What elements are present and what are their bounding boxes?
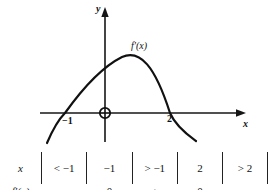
cell-fprime-1: 0 xyxy=(91,184,128,190)
graph-area: y x −1 2 f'(x) xyxy=(0,0,272,150)
table-rule-spacer xyxy=(83,184,92,190)
row-label-fprime: f′(x) xyxy=(4,184,37,190)
table-rule xyxy=(218,152,227,184)
sign-table: x < −1 −1 > −1 2 > 2 f′(x) −ve 0 xyxy=(0,152,272,190)
table-rule-spacer xyxy=(37,184,46,190)
cell-fprime-2: + xyxy=(136,184,173,190)
table-rule xyxy=(173,152,182,184)
cell-x-4: > 2 xyxy=(227,152,264,184)
derivative-curve xyxy=(47,55,196,143)
table-rule-spacer xyxy=(173,184,182,190)
table-row-fprime: f′(x) −ve 0 + 0 −ve xyxy=(4,184,272,190)
table-rule xyxy=(263,152,272,184)
derivative-sign-figure: y x −1 2 f'(x) x < −1 −1 > −1 2 > 2 xyxy=(0,0,272,190)
cell-x-0: < −1 xyxy=(46,152,83,184)
table-row-x: x < −1 −1 > −1 2 > 2 xyxy=(4,152,272,184)
table-rule xyxy=(83,152,92,184)
table-rule-spacer xyxy=(128,184,137,190)
table-rule xyxy=(128,152,137,184)
x-tick-label-root-right: 2 xyxy=(167,114,172,124)
curve-label: f'(x) xyxy=(131,41,147,51)
x-axis-label: x xyxy=(243,119,248,129)
sign-table-grid: x < −1 −1 > −1 2 > 2 f′(x) −ve 0 xyxy=(4,152,272,190)
origin-marker-icon xyxy=(100,108,111,119)
cell-x-1: −1 xyxy=(91,152,128,184)
graph-svg xyxy=(0,0,272,150)
table-rule xyxy=(37,152,46,184)
table-rule-spacer xyxy=(218,184,227,190)
x-tick-label-root-left: −1 xyxy=(62,116,73,126)
cell-fprime-4: −ve xyxy=(227,184,264,190)
row-label-x: x xyxy=(4,152,37,184)
y-axis-label: y xyxy=(96,4,100,14)
cell-fprime-3: 0 xyxy=(182,184,218,190)
y-axis xyxy=(101,7,108,142)
cell-x-3: 2 xyxy=(182,152,218,184)
cell-fprime-0: −ve xyxy=(46,184,83,190)
cell-x-2: > −1 xyxy=(136,152,173,184)
table-rule-spacer xyxy=(263,184,272,190)
